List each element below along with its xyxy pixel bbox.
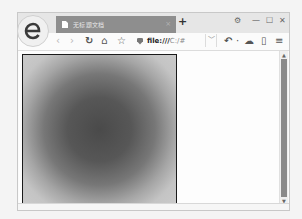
tab-title: 无标题文档 bbox=[73, 20, 105, 29]
undo-dropdown-dot[interactable]: · bbox=[236, 35, 239, 47]
address-dropdown-button[interactable]: ﹀ bbox=[205, 34, 217, 47]
cloud-icon[interactable]: ☁ bbox=[244, 35, 254, 47]
page-content bbox=[19, 51, 280, 205]
minimize-button[interactable]: — bbox=[252, 16, 260, 26]
scroll-thumb[interactable] bbox=[281, 59, 287, 197]
window-bottom-edge bbox=[18, 203, 289, 210]
title-bar: 无标题文档 × + ⚙ — ☐ ✕ bbox=[18, 13, 289, 33]
vertical-scrollbar[interactable]: ▲ ▼ bbox=[279, 51, 288, 205]
browser-logo-icon bbox=[17, 15, 49, 47]
scroll-up-arrow-icon[interactable]: ▲ bbox=[281, 52, 287, 58]
favorite-star-button[interactable]: ☆ bbox=[117, 35, 126, 47]
new-tab-button[interactable]: + bbox=[178, 15, 187, 29]
tab-close-icon[interactable]: × bbox=[165, 20, 171, 28]
navigation-toolbar: ‹ › ↻ ⌂ ☆ file:/// C:/# ﹀ ↶ · ☁ ▯ ≡ bbox=[18, 33, 289, 51]
page-icon bbox=[62, 21, 68, 28]
browser-window: 无标题文档 × + ⚙ — ☐ ✕ ‹ › ↻ ⌂ ☆ file:/// C:/… bbox=[17, 12, 290, 211]
forward-button[interactable]: › bbox=[70, 35, 74, 47]
maximize-button[interactable]: ☐ bbox=[266, 16, 273, 26]
radial-gradient-canvas bbox=[22, 54, 177, 205]
back-button[interactable]: ‹ bbox=[56, 35, 60, 47]
address-path: C:/# bbox=[170, 37, 185, 45]
address-scheme: file:/// bbox=[147, 37, 170, 45]
home-button[interactable]: ⌂ bbox=[101, 35, 107, 47]
settings-gear-icon[interactable]: ⚙ bbox=[234, 16, 241, 26]
shield-icon bbox=[137, 38, 143, 45]
phone-icon[interactable]: ▯ bbox=[261, 35, 267, 47]
menu-icon[interactable]: ≡ bbox=[275, 35, 283, 47]
tab-untitled-document[interactable]: 无标题文档 × bbox=[56, 16, 176, 33]
close-window-button[interactable]: ✕ bbox=[279, 16, 286, 26]
reload-button[interactable]: ↻ bbox=[85, 35, 93, 47]
undo-button[interactable]: ↶ bbox=[224, 35, 232, 47]
